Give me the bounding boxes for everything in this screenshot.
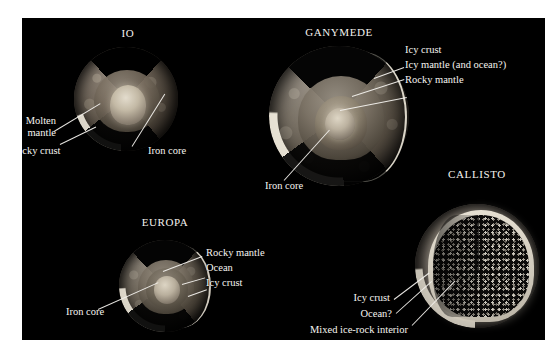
ganymede-label-icy-crust: Icy crust bbox=[405, 44, 441, 56]
io-label-iron-core: Iron core bbox=[148, 145, 186, 157]
callisto-title: CALLISTO bbox=[437, 168, 517, 180]
io-iron-core bbox=[110, 85, 146, 125]
callisto-label-icy-crust: Icy crust bbox=[318, 292, 390, 304]
europa-label-rocky-mantle: Rocky mantle bbox=[206, 247, 265, 259]
ganymede-iron-core bbox=[325, 108, 355, 140]
ganymede-label-rocky-mantle: Rocky mantle bbox=[405, 74, 464, 86]
io-title: IO bbox=[106, 27, 150, 39]
ganymede-title: GANYMEDE bbox=[284, 26, 394, 38]
europa-label-iron-core: Iron core bbox=[66, 306, 104, 318]
europa-label-ocean: Ocean bbox=[206, 262, 233, 274]
figure-black-plate: IO Molten mantle Rocky crust Iron core bbox=[22, 18, 545, 340]
figure-canvas: IO Molten mantle Rocky crust Iron core bbox=[0, 0, 559, 351]
europa-label-icy-crust: Icy crust bbox=[206, 277, 242, 289]
europa-iron-core bbox=[154, 276, 180, 304]
callisto-label-mixed-interior: Mixed ice-rock interior bbox=[266, 324, 408, 336]
ganymede-label-icy-mantle: Icy mantle (and ocean?) bbox=[405, 59, 506, 71]
ganymede-label-iron-core: Iron core bbox=[265, 180, 303, 192]
callisto-label-ocean: Ocean? bbox=[318, 308, 392, 320]
io-label-molten-mantle: Molten mantle bbox=[22, 115, 56, 139]
callisto-cutaway-shadow bbox=[433, 215, 481, 317]
europa-title: EUROPA bbox=[130, 216, 200, 228]
io-label-rocky-crust: Rocky crust bbox=[22, 145, 60, 157]
